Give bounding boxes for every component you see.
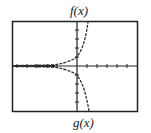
graph-window	[0, 0, 151, 133]
g-x-label: g(x)	[73, 116, 94, 129]
